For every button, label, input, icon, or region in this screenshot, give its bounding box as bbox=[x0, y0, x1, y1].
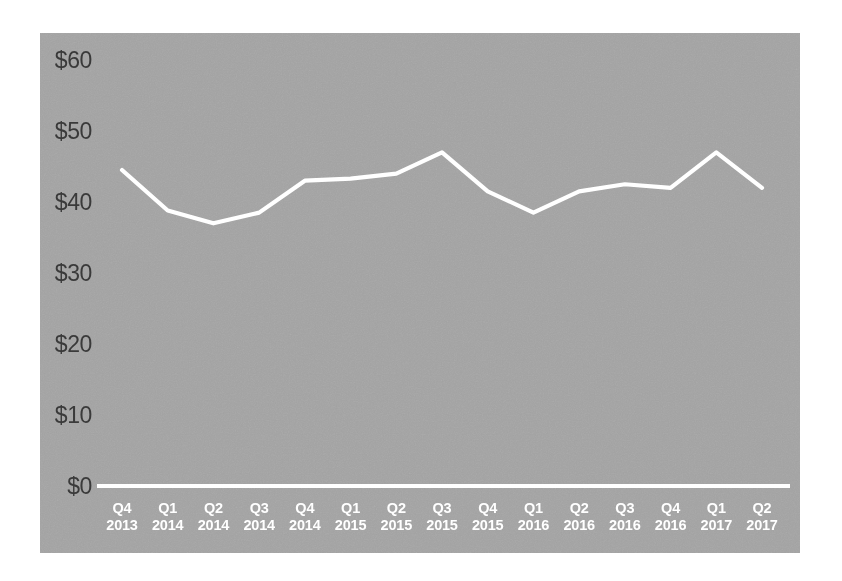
x-axis-tick-label: Q32016 bbox=[609, 500, 640, 534]
plot-panel bbox=[40, 33, 800, 553]
x-tick-quarter: Q2 bbox=[563, 500, 594, 517]
x-axis-tick-label: Q42016 bbox=[655, 500, 686, 534]
x-tick-quarter: Q2 bbox=[381, 500, 412, 517]
x-tick-quarter: Q1 bbox=[152, 500, 183, 517]
x-tick-year: 2016 bbox=[563, 517, 594, 534]
chart-figure: $0$10$20$30$40$50$60 Q42013Q12014Q22014Q… bbox=[0, 0, 842, 581]
x-axis-tick-label: Q32014 bbox=[243, 500, 274, 534]
x-tick-year: 2013 bbox=[106, 517, 137, 534]
x-tick-year: 2017 bbox=[746, 517, 777, 534]
x-tick-quarter: Q3 bbox=[243, 500, 274, 517]
x-tick-quarter: Q4 bbox=[289, 500, 320, 517]
y-axis-tick-label: $0 bbox=[0, 473, 92, 500]
x-axis-tick-label: Q42014 bbox=[289, 500, 320, 534]
x-tick-year: 2015 bbox=[472, 517, 503, 534]
x-tick-year: 2015 bbox=[335, 517, 366, 534]
y-axis-tick-label: $20 bbox=[0, 331, 92, 358]
x-axis-tick-label: Q12015 bbox=[335, 500, 366, 534]
x-tick-year: 2015 bbox=[381, 517, 412, 534]
x-axis-tick-label: Q22015 bbox=[381, 500, 412, 534]
x-tick-quarter: Q1 bbox=[518, 500, 549, 517]
x-tick-quarter: Q1 bbox=[701, 500, 732, 517]
x-tick-quarter: Q4 bbox=[472, 500, 503, 517]
x-axis-tick-label: Q22017 bbox=[746, 500, 777, 534]
x-tick-year: 2016 bbox=[518, 517, 549, 534]
x-axis-tick-label: Q22016 bbox=[563, 500, 594, 534]
x-tick-year: 2014 bbox=[289, 517, 320, 534]
x-tick-year: 2016 bbox=[655, 517, 686, 534]
x-tick-year: 2014 bbox=[198, 517, 229, 534]
x-tick-year: 2014 bbox=[152, 517, 183, 534]
x-axis-tick-label: Q12016 bbox=[518, 500, 549, 534]
x-tick-quarter: Q4 bbox=[655, 500, 686, 517]
y-axis-tick-label: $60 bbox=[0, 47, 92, 74]
y-axis-tick-label: $50 bbox=[0, 118, 92, 145]
x-tick-year: 2015 bbox=[426, 517, 457, 534]
x-tick-quarter: Q3 bbox=[609, 500, 640, 517]
y-axis-tick-label: $30 bbox=[0, 260, 92, 287]
x-tick-quarter: Q2 bbox=[746, 500, 777, 517]
x-axis-tick-label: Q42013 bbox=[106, 500, 137, 534]
x-axis-tick-label: Q12014 bbox=[152, 500, 183, 534]
x-tick-year: 2016 bbox=[609, 517, 640, 534]
x-tick-quarter: Q4 bbox=[106, 500, 137, 517]
y-axis-tick-label: $40 bbox=[0, 189, 92, 216]
x-tick-quarter: Q3 bbox=[426, 500, 457, 517]
x-axis-tick-label: Q42015 bbox=[472, 500, 503, 534]
y-axis-tick-label: $10 bbox=[0, 402, 92, 429]
x-axis-tick-label: Q12017 bbox=[701, 500, 732, 534]
panel-texture bbox=[40, 33, 800, 553]
x-tick-quarter: Q1 bbox=[335, 500, 366, 517]
x-tick-year: 2017 bbox=[701, 517, 732, 534]
x-tick-quarter: Q2 bbox=[198, 500, 229, 517]
x-axis-tick-label: Q22014 bbox=[198, 500, 229, 534]
x-axis-tick-label: Q32015 bbox=[426, 500, 457, 534]
x-tick-year: 2014 bbox=[243, 517, 274, 534]
